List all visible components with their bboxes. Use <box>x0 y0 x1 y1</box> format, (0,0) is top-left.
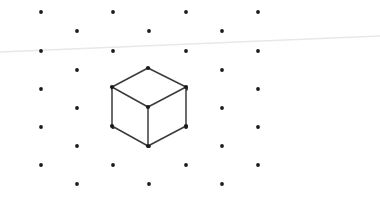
lattice-dot <box>184 10 188 14</box>
lattice-dot <box>39 10 43 14</box>
lattice-dot <box>75 29 79 33</box>
lattice-dot <box>39 125 43 129</box>
cube-vertex-left-bottom[interactable] <box>110 124 114 128</box>
cube-vertex-center[interactable] <box>146 105 150 109</box>
cube-vertex-left-top[interactable] <box>110 85 114 89</box>
lattice-dot <box>111 163 115 167</box>
lattice-dot <box>39 163 43 167</box>
lattice-dot <box>220 106 224 110</box>
lattice-dot <box>147 182 151 186</box>
lattice-dot <box>111 49 115 53</box>
lattice-dot <box>256 49 260 53</box>
lattice-dot <box>111 10 115 14</box>
drawing-canvas[interactable] <box>0 0 380 205</box>
lattice-dot <box>256 125 260 129</box>
lattice-dot <box>75 182 79 186</box>
scene-svg <box>0 0 380 205</box>
lattice-dot <box>39 49 43 53</box>
lattice-dot <box>256 87 260 91</box>
lattice-dot <box>75 68 79 72</box>
lattice-dot <box>220 68 224 72</box>
lattice-dot <box>184 163 188 167</box>
lattice-dot <box>220 182 224 186</box>
lattice-dot <box>39 87 43 91</box>
lattice-dot <box>220 144 224 148</box>
lattice-dot <box>75 106 79 110</box>
lattice-dot <box>220 29 224 33</box>
cube-vertex-top[interactable] <box>146 66 150 70</box>
canvas-background <box>0 0 380 205</box>
lattice-dot <box>147 29 151 33</box>
lattice-dot <box>256 163 260 167</box>
cube-vertex-bottom[interactable] <box>146 144 150 148</box>
lattice-dot <box>75 144 79 148</box>
lattice-dot <box>256 10 260 14</box>
lattice-dot <box>184 49 188 53</box>
cube-vertex-right-top[interactable] <box>184 85 188 89</box>
cube-vertex-right-bottom[interactable] <box>184 124 188 128</box>
